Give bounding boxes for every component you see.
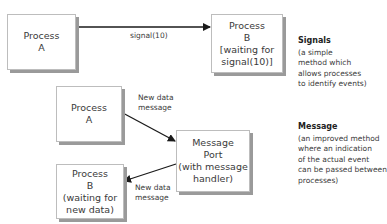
box-line: signal(10)] [221,56,272,68]
box-line: B [87,180,94,192]
label-line: New data [135,183,171,193]
note-line: method which [298,58,367,69]
message-port-box: Message Port (with message handler) [176,130,250,192]
box-line: Process [229,20,265,32]
note-line: can be passed between [298,165,387,176]
message-out-arrow [124,164,176,181]
note-line: to identify events) [298,79,367,90]
box-line: Message [192,137,234,149]
signals-note: Signals (a simple method which allows pr… [298,36,367,90]
box-line: new data) [66,204,114,216]
box-line: Port [204,149,223,161]
label-line: message [135,193,171,203]
box-line: Process [72,168,108,180]
process-b-box-signals: Process B [waiting for signal(10)] [211,14,283,73]
label-line: message [138,103,174,113]
note-line: (a simple [298,48,367,59]
message-in-arrow [121,112,175,141]
message-in-label: New data message [138,93,174,113]
process-b-box-message: Process B (waiting for new data) [56,164,124,219]
box-line: handler) [193,173,233,185]
note-line: allows processes [298,69,367,80]
box-line: A [38,42,45,54]
box-line: Process [23,30,59,42]
note-line: where an indication [298,144,387,155]
message-note-title: Message [298,122,387,133]
process-a-box-signals: Process A [7,14,76,70]
message-out-label: New data message [135,183,171,203]
box-line: Process [71,102,107,114]
message-note: Message (an improved method where an ind… [298,122,387,186]
note-line: (an improved method [298,134,387,145]
box-line: B [244,32,251,44]
process-a-box-message: Process A [56,86,122,142]
signals-note-title: Signals [298,36,367,47]
box-line: A [86,114,93,126]
signal-arrow-label: signal(10) [130,31,168,41]
note-line: processes) [298,176,387,187]
box-line: (waiting for [63,192,117,204]
box-line: [waiting for [220,44,274,56]
note-line: of the actual event [298,155,387,166]
box-line: (with message [178,161,248,173]
label-line: New data [138,93,174,103]
